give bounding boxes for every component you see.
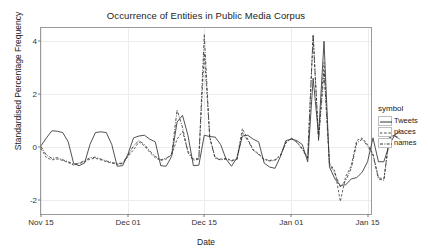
legend-line-sample-icon bbox=[378, 138, 392, 148]
legend-item-places[interactable]: places bbox=[378, 126, 426, 137]
chart-screenshot: Occurrence of Entities in Public Media C… bbox=[0, 0, 428, 251]
legend-item-label: names bbox=[394, 138, 417, 147]
series-line-tweets bbox=[41, 41, 400, 185]
y-tick-label: 4 bbox=[33, 37, 37, 46]
legend-items: Tweetsplacesnames bbox=[378, 115, 426, 148]
x-tick-label: Dec 01 bbox=[115, 218, 140, 227]
legend-item-names[interactable]: names bbox=[378, 137, 426, 148]
y-tick-label: 0 bbox=[33, 143, 37, 152]
plot-area: 420-2Nov 15Dec 01Dec 15Jan 01Jan 15 bbox=[40, 27, 372, 215]
legend-title: symbol bbox=[378, 104, 426, 113]
x-tick-label: Nov 15 bbox=[28, 218, 53, 227]
series-line-names bbox=[41, 35, 400, 187]
x-tick-label: Jan 01 bbox=[279, 218, 303, 227]
legend-item-tweets[interactable]: Tweets bbox=[378, 115, 426, 126]
series-line-places bbox=[41, 36, 400, 202]
x-tick-label: Jan 15 bbox=[356, 218, 380, 227]
x-tick-label: Dec 15 bbox=[192, 218, 217, 227]
y-tick-label: -2 bbox=[30, 196, 37, 205]
y-axis-label: Standardised Percentage Frequency bbox=[13, 1, 23, 161]
y-tick-label: 2 bbox=[33, 90, 37, 99]
legend-item-label: places bbox=[394, 127, 416, 136]
x-axis-label: Date bbox=[40, 237, 372, 247]
chart-title: Occurrence of Entities in Public Media C… bbox=[40, 10, 372, 21]
legend-line-sample-icon bbox=[378, 116, 392, 126]
series-layer bbox=[41, 28, 373, 216]
legend-item-label: Tweets bbox=[394, 116, 418, 125]
legend-line-sample-icon bbox=[378, 127, 392, 137]
legend: symbol Tweetsplacesnames bbox=[378, 104, 426, 148]
